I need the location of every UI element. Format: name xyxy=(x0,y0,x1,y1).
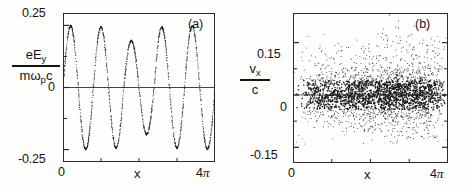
panel-a-xtick-right: 4π xyxy=(196,165,209,181)
panel-b-xtick-left: 0 xyxy=(288,166,295,180)
panel-b-plot xyxy=(236,0,472,189)
panel-a-xtick-left: 0 xyxy=(58,165,65,179)
panel-a-xlabel: x xyxy=(134,166,141,181)
panel-b: vx c 0.15 0 -0.15 (b) 0 x 4π xyxy=(236,0,472,189)
panel-a: eEy mωpc 0.25 0 -0.25 (a) 0 x 4π xyxy=(0,0,236,189)
figure-root: eEy mωpc 0.25 0 -0.25 (a) 0 x 4π vx c 0.… xyxy=(0,0,472,189)
panel-b-xtick-right: 4π xyxy=(430,166,443,182)
panel-b-tag: (b) xyxy=(415,17,430,31)
panel-b-xlabel: x xyxy=(364,167,371,182)
panel-a-tag: (a) xyxy=(188,17,203,31)
